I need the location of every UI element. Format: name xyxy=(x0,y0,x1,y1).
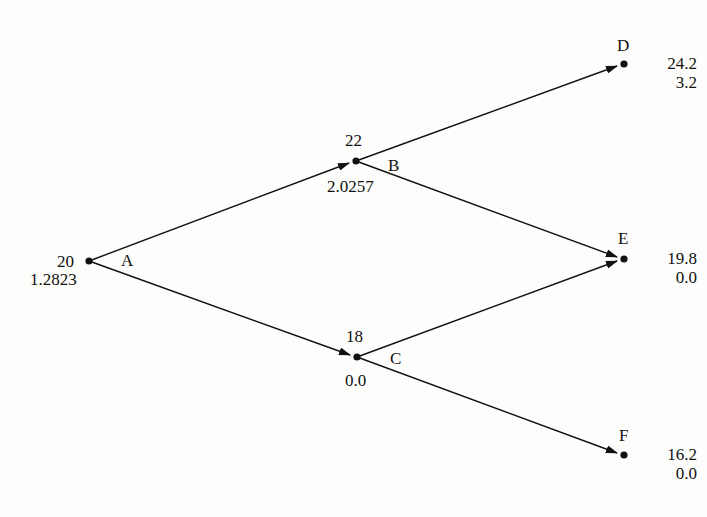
edge-b-d xyxy=(356,66,617,161)
node-d-dot xyxy=(620,60,627,67)
edge-c-e xyxy=(357,261,617,357)
node-a-price: 20 xyxy=(30,253,74,271)
node-d-label: D xyxy=(617,37,629,55)
node-b-price: 22 xyxy=(345,132,362,150)
edge-c-f xyxy=(357,357,617,453)
edge-a-b xyxy=(89,163,349,261)
node-c-value: 0.0 xyxy=(345,372,366,390)
node-e-value: 0.0 xyxy=(630,269,697,287)
node-a-value: 1.2823 xyxy=(30,271,77,289)
node-a-dot xyxy=(85,257,92,264)
node-d-price: 24.2 xyxy=(630,55,697,73)
node-c-price: 18 xyxy=(346,328,363,346)
node-f-dot xyxy=(620,451,627,458)
node-f-label: F xyxy=(619,427,628,445)
node-d-value: 3.2 xyxy=(630,74,697,92)
node-e-dot xyxy=(620,255,627,262)
node-c-dot xyxy=(353,353,360,360)
node-c-label: C xyxy=(390,350,401,368)
node-e-price: 19.8 xyxy=(630,250,697,268)
node-b-value: 2.0257 xyxy=(327,178,374,196)
tree-canvas xyxy=(0,0,707,517)
edge-b-e xyxy=(356,161,617,257)
node-f-value: 0.0 xyxy=(630,465,697,483)
node-b-dot xyxy=(352,157,359,164)
node-a-label: A xyxy=(121,252,133,270)
node-e-label: E xyxy=(618,230,628,248)
node-b-label: B xyxy=(388,157,399,175)
edge-a-c xyxy=(89,261,350,355)
node-f-price: 16.2 xyxy=(630,446,697,464)
